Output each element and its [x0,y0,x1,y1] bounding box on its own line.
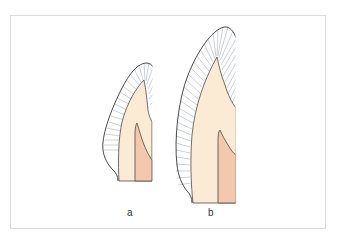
tooth-b [176,27,236,203]
panel-label-a: a [127,207,133,218]
tooth-diagram [0,0,337,237]
panel-label-b: b [208,207,214,218]
tooth-a [103,63,153,181]
